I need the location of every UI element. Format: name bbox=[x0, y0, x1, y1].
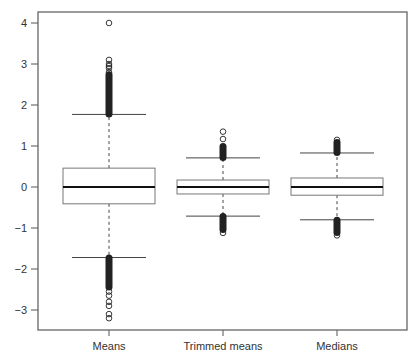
y-tick-label: −3 bbox=[14, 304, 27, 316]
outlier-point bbox=[106, 315, 112, 321]
box-series bbox=[63, 20, 383, 321]
y-tick-label: 2 bbox=[21, 99, 27, 111]
y-tick-label: 4 bbox=[21, 17, 27, 29]
x-tick-label: Trimmed means bbox=[183, 340, 263, 352]
box-trimmed-means bbox=[177, 129, 269, 236]
y-tick-label: 1 bbox=[21, 140, 27, 152]
boxplot-chart: −3−2−101234 MeansTrimmed meansMedians bbox=[0, 0, 420, 362]
x-tick-label: Medians bbox=[316, 340, 358, 352]
y-tick-label: 0 bbox=[21, 181, 27, 193]
outlier-point bbox=[106, 20, 112, 26]
box-medians bbox=[291, 137, 383, 238]
outlier-point bbox=[220, 136, 226, 142]
outlier-cluster bbox=[106, 255, 113, 291]
x-tick-label: Means bbox=[92, 340, 126, 352]
outlier-cluster bbox=[220, 143, 227, 161]
outlier-cluster bbox=[334, 217, 341, 236]
box-means bbox=[63, 20, 155, 321]
x-axis: MeansTrimmed meansMedians bbox=[92, 330, 358, 352]
y-tick-label: −2 bbox=[14, 263, 27, 275]
outlier-point bbox=[220, 129, 226, 135]
y-tick-label: 3 bbox=[21, 58, 27, 70]
outlier-point bbox=[106, 57, 112, 63]
outlier-point bbox=[106, 293, 112, 299]
outlier-point bbox=[106, 303, 112, 309]
y-tick-label: −1 bbox=[14, 222, 27, 234]
y-axis: −3−2−101234 bbox=[14, 17, 38, 316]
outlier-cluster bbox=[106, 71, 113, 117]
